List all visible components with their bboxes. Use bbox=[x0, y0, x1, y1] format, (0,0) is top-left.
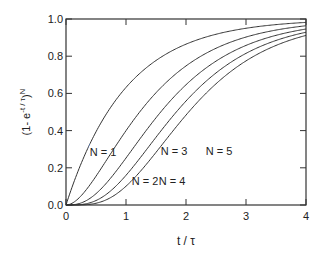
x-tick-label: 3 bbox=[243, 210, 249, 222]
curve-n1 bbox=[66, 22, 306, 205]
plot-frame bbox=[66, 19, 306, 205]
curve-n4 bbox=[66, 32, 306, 205]
curve-n3 bbox=[66, 29, 306, 205]
y-tick-label: 0.2 bbox=[48, 162, 63, 174]
y-tick-label: 1.0 bbox=[48, 13, 63, 25]
y-tick-label: 0.4 bbox=[48, 125, 63, 137]
x-tick-label: 4 bbox=[303, 210, 309, 222]
y-tick-label: 0.0 bbox=[48, 199, 63, 211]
y-tick-label: 0.6 bbox=[48, 87, 63, 99]
y-axis-label: (1- e-t / τ)N bbox=[18, 88, 32, 135]
x-tick-label: 2 bbox=[183, 210, 189, 222]
y-tick-label: 0.8 bbox=[48, 50, 63, 62]
x-tick-label: 0 bbox=[63, 210, 69, 222]
series-label-n4: N = 4 bbox=[159, 175, 186, 187]
x-tick-label: 1 bbox=[123, 210, 129, 222]
series-label-n3: N = 3 bbox=[161, 145, 188, 157]
x-axis-label: t / τ bbox=[177, 234, 195, 248]
series-label-n5: N = 5 bbox=[206, 145, 233, 157]
line-chart: 012340.00.20.40.60.81.0t / τ(1- e-t / τ)… bbox=[0, 0, 324, 257]
